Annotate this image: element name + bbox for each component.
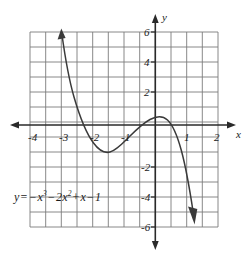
y-tick-label-6: 6 <box>144 27 150 38</box>
y-tick-label--2: -2 <box>141 162 150 173</box>
y-tick-label--6: -6 <box>141 222 150 233</box>
y-tick-label--4: -4 <box>141 192 150 203</box>
y-axis <box>152 14 159 250</box>
y-axis-label: y <box>162 12 167 23</box>
equation-term4-sign: − <box>86 190 95 204</box>
equation-annotation: y=−x3−2x2+x−1 <box>14 191 101 203</box>
curve-top-arrowhead <box>58 29 66 40</box>
x-axis-left-arrowhead <box>10 122 19 129</box>
graph-figure: -4 -3 -2 -1 1 2 6 4 2 -2 -4 -6 x y y=−x3… <box>0 0 246 254</box>
y-tick-label-2: 2 <box>144 87 150 98</box>
x-tick-label--1: -1 <box>121 132 130 143</box>
y-axis-top-arrowhead <box>152 14 159 23</box>
curve-bottom-arrowhead <box>188 207 197 225</box>
coordinate-plane <box>0 0 246 254</box>
x-tick-label--3: -3 <box>59 132 68 143</box>
equation-term4: 1 <box>95 190 101 204</box>
equation-term2-sign: − <box>47 190 56 204</box>
x-axis-label: x <box>236 129 241 140</box>
x-axis-right-arrowhead <box>227 122 236 129</box>
y-tick-label-4: 4 <box>144 57 150 68</box>
x-tick-label--2: -2 <box>90 132 99 143</box>
y-axis-bottom-arrowhead <box>152 241 159 250</box>
equation-term3-sign: + <box>72 190 81 204</box>
x-tick-label-1: 1 <box>184 132 190 143</box>
x-tick-label-2: 2 <box>214 132 220 143</box>
x-tick-label--4: -4 <box>28 132 37 143</box>
equation-equals: = <box>20 190 29 204</box>
equation-lhs: y <box>14 190 20 204</box>
